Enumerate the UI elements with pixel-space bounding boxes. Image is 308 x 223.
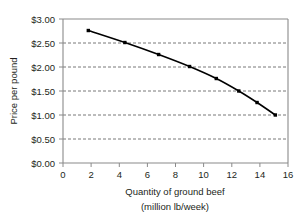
x-tick-label: 0 bbox=[60, 169, 65, 180]
y-tick-label: $0.50 bbox=[31, 134, 55, 145]
y-tick-label: $1.00 bbox=[31, 110, 55, 121]
x-axis-ticks bbox=[63, 163, 288, 167]
x-axis-title-line2: (million lb/week) bbox=[141, 201, 209, 212]
x-tick-label: 10 bbox=[198, 169, 209, 180]
data-point bbox=[274, 113, 277, 116]
y-tick-label: $0.00 bbox=[31, 158, 55, 169]
x-tick-label: 2 bbox=[88, 169, 93, 180]
chart-figure: $3.00 $2.50 $2.00 $1.50 $1.00 $0.50 $0.0… bbox=[0, 0, 308, 223]
x-tick-label: 8 bbox=[173, 169, 178, 180]
data-point bbox=[188, 65, 191, 68]
x-tick-label: 14 bbox=[255, 169, 266, 180]
y-tick-label: $1.50 bbox=[31, 86, 55, 97]
y-tick-label: $2.00 bbox=[31, 62, 55, 73]
x-axis-title-line1: Quantity of ground beef bbox=[125, 186, 225, 197]
x-axis-tick-labels: 0 2 4 6 8 10 12 14 16 bbox=[60, 169, 293, 180]
data-point bbox=[87, 29, 90, 32]
x-tick-label: 4 bbox=[117, 169, 122, 180]
y-axis-title: Price per pound bbox=[8, 57, 19, 124]
data-point bbox=[123, 41, 126, 44]
data-point bbox=[215, 77, 218, 80]
y-axis-ticks bbox=[59, 19, 63, 163]
data-point bbox=[255, 101, 258, 104]
y-tick-label: $3.00 bbox=[31, 14, 55, 25]
y-tick-label: $2.50 bbox=[31, 38, 55, 49]
y-axis-tick-labels: $3.00 $2.50 $2.00 $1.50 $1.00 $0.50 $0.0… bbox=[31, 14, 55, 169]
x-tick-label: 6 bbox=[145, 169, 150, 180]
data-point bbox=[157, 53, 160, 56]
x-tick-label: 12 bbox=[227, 169, 238, 180]
chart-canvas: $3.00 $2.50 $2.00 $1.50 $1.00 $0.50 $0.0… bbox=[0, 0, 308, 223]
x-tick-label: 16 bbox=[283, 169, 294, 180]
data-point bbox=[237, 89, 240, 92]
